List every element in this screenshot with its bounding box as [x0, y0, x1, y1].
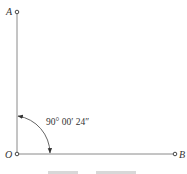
label-O: O	[5, 149, 12, 160]
point-B	[173, 152, 177, 156]
caption-fragment-1	[48, 171, 78, 174]
point-A	[15, 10, 19, 14]
caption-fragment-2	[96, 171, 136, 174]
label-A: A	[5, 6, 13, 17]
angle-label: 90° 00′ 24″	[46, 117, 89, 127]
point-O	[15, 152, 19, 156]
label-B: B	[179, 149, 185, 160]
angle-diagram: A O B 90° 00′ 24″	[0, 0, 187, 174]
